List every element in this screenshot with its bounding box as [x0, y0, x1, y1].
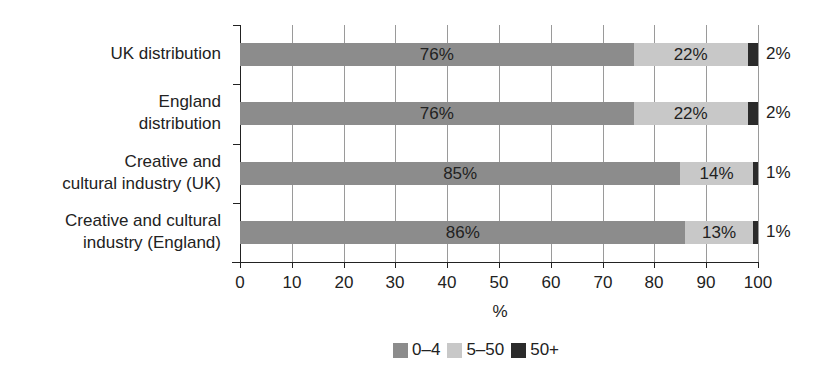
bar-segment: 86%	[240, 221, 685, 244]
y-category-label: UK distribution	[0, 43, 221, 65]
x-tick-label: 40	[427, 273, 467, 293]
bar-segment	[753, 221, 758, 244]
bar-segment: 85%	[240, 162, 680, 185]
y-tick-mark	[233, 144, 240, 145]
x-tick-mark	[240, 262, 241, 268]
bar-row: 85%14%	[240, 162, 758, 185]
bar-segment	[748, 43, 758, 66]
x-tick-mark	[551, 262, 552, 268]
x-tick-label: 10	[272, 273, 312, 293]
bar-row: 76%22%	[240, 43, 758, 66]
x-tick-label: 60	[531, 273, 571, 293]
bar-row: 86%13%	[240, 221, 758, 244]
x-tick-label: 50	[479, 273, 519, 293]
x-tick-label: 70	[583, 273, 623, 293]
legend-item: 50+	[511, 340, 559, 360]
legend-swatch	[447, 343, 462, 358]
x-tick-label: 0	[220, 273, 260, 293]
bar-segment: 76%	[240, 102, 634, 125]
y-category-label: Englanddistribution	[0, 91, 221, 135]
x-tick-mark	[344, 262, 345, 268]
x-axis-line	[232, 262, 759, 263]
bar-end-label: 1%	[766, 163, 791, 183]
bar-segment: 14%	[680, 162, 753, 185]
bar-end-label: 1%	[766, 222, 791, 242]
x-tick-mark	[706, 262, 707, 268]
y-tick-mark	[233, 203, 240, 204]
bar-segment: 22%	[634, 102, 748, 125]
x-tick-mark	[499, 262, 500, 268]
x-tick-label: 30	[375, 273, 415, 293]
bar-segment: 76%	[240, 43, 634, 66]
legend: 0–45–5050+	[393, 340, 566, 360]
legend-label: 0–4	[412, 340, 440, 360]
x-axis-title: %	[490, 302, 510, 322]
x-tick-mark	[603, 262, 604, 268]
x-tick-label: 20	[324, 273, 364, 293]
gridline	[758, 25, 759, 262]
bar-segment	[748, 102, 758, 125]
x-tick-mark	[395, 262, 396, 268]
legend-item: 5–50	[447, 340, 504, 360]
legend-swatch	[393, 343, 408, 358]
x-tick-mark	[654, 262, 655, 268]
y-tick-mark	[233, 25, 240, 26]
x-tick-label: 80	[634, 273, 674, 293]
bar-end-label: 2%	[766, 103, 791, 123]
y-category-label: Creative and culturalindustry (England)	[0, 210, 221, 254]
legend-swatch	[511, 343, 526, 358]
x-tick-mark	[758, 262, 759, 268]
bar-end-label: 2%	[766, 44, 791, 64]
x-tick-label: 100	[738, 273, 778, 293]
bar-segment	[753, 162, 758, 185]
legend-label: 50+	[530, 340, 559, 360]
x-tick-mark	[292, 262, 293, 268]
x-tick-mark	[447, 262, 448, 268]
legend-label: 5–50	[466, 340, 504, 360]
bar-segment: 22%	[634, 43, 748, 66]
bar-row: 76%22%	[240, 102, 758, 125]
x-tick-label: 90	[686, 273, 726, 293]
y-category-label: Creative andcultural industry (UK)	[0, 151, 221, 195]
legend-item: 0–4	[393, 340, 440, 360]
bar-segment: 13%	[685, 221, 752, 244]
y-tick-mark	[233, 84, 240, 85]
